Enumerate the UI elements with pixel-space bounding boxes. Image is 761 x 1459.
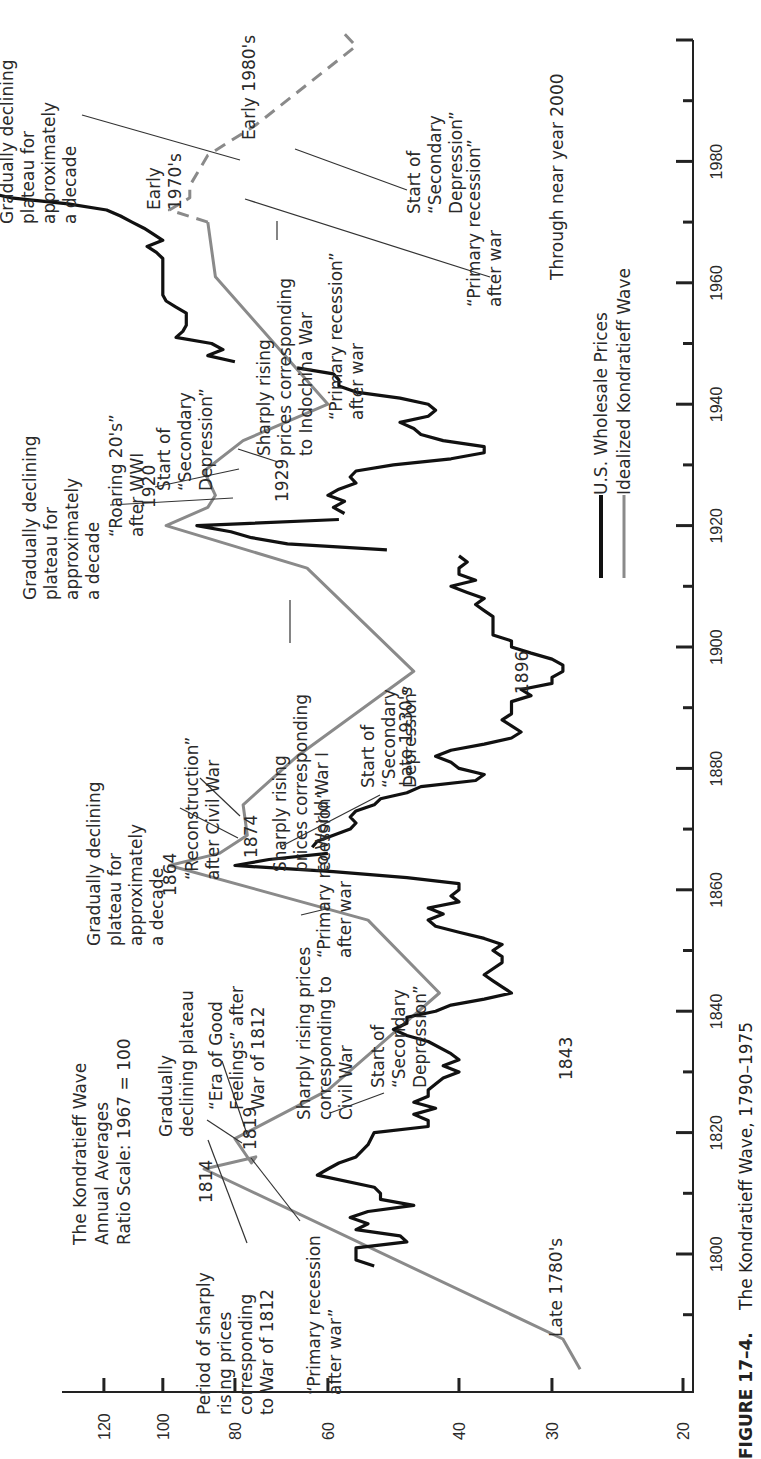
annotation: “Primary recession”after war bbox=[326, 252, 367, 420]
annotation: Start of“SecondaryDepression” bbox=[404, 111, 466, 214]
annotation-line: “Primary recession” bbox=[326, 252, 346, 420]
annotation-line: Early bbox=[144, 167, 164, 210]
annotation-line: Civil War bbox=[336, 1045, 356, 1120]
idealized-wave-line bbox=[169, 34, 356, 222]
caption-figure-number: FIGURE 17–4. bbox=[736, 1332, 756, 1459]
annotation: Period of sharplyrising pricescorrespond… bbox=[194, 1272, 277, 1415]
annotation-line: Feelings” after bbox=[227, 986, 247, 1110]
annotation-line: 1843 bbox=[556, 1037, 576, 1080]
annotation-line: Through near year 2000 bbox=[547, 73, 567, 281]
annotation: 1819 bbox=[240, 1107, 260, 1150]
annotation-line: Late 1930's bbox=[396, 687, 416, 786]
annotation-line: approximately bbox=[62, 478, 82, 600]
year-axis-ticks: 1800182018401860188019001920194019601980 bbox=[676, 40, 725, 1315]
annotation: Late 1780's bbox=[546, 1238, 566, 1337]
annotation-line: declining plateau bbox=[177, 990, 197, 1137]
value-tick-label: 30 bbox=[544, 1422, 561, 1440]
annotation-line: Depression” bbox=[446, 111, 466, 214]
annotation-line: approximately bbox=[126, 824, 146, 946]
legend-label-idealized: Idealized Kondratieff Wave bbox=[614, 268, 634, 495]
annotation-line: to World War I bbox=[312, 752, 332, 872]
annotation: Gradually decliningplateau forapproximat… bbox=[84, 781, 167, 946]
annotation: 1874 bbox=[241, 815, 261, 858]
wholesale-prices-line bbox=[312, 556, 563, 847]
annotation-line: Period of sharply bbox=[194, 1272, 214, 1415]
value-tick-label: 120 bbox=[96, 1413, 113, 1440]
annotation-line: 1970's bbox=[165, 153, 185, 210]
year-tick-label: 1900 bbox=[708, 629, 725, 665]
annotation-line: after war bbox=[347, 343, 367, 420]
annotation: 1814 bbox=[196, 1160, 216, 1203]
annotation-line: Depression” bbox=[196, 388, 216, 491]
annotation-line: to Indochina War bbox=[296, 312, 316, 456]
annotation-line: 1896 bbox=[512, 651, 532, 694]
annotation-line: Start of bbox=[368, 1024, 388, 1088]
annotation-line: 1819 bbox=[240, 1107, 260, 1150]
annotation-line: to War of 1812 bbox=[257, 1289, 277, 1415]
annotation-line: “Reconstruction” bbox=[182, 737, 202, 880]
annotation-line: 1814 bbox=[196, 1160, 216, 1203]
annotation-line: Depression” bbox=[410, 985, 430, 1088]
value-tick-label: 100 bbox=[155, 1413, 172, 1440]
annotation: Early 1980's bbox=[239, 35, 259, 140]
header-title: The Kondratieff Wave bbox=[70, 1063, 90, 1246]
year-tick-label: 1920 bbox=[708, 508, 725, 544]
legend: U.S. Wholesale Prices Idealized Kondrati… bbox=[591, 268, 634, 578]
annotation-line: plateau for bbox=[18, 131, 38, 224]
annotation-line: Start of bbox=[404, 150, 424, 214]
annotation: Early1970's bbox=[144, 153, 185, 210]
annotation-line: Start of bbox=[358, 724, 378, 788]
annotation-line: after war bbox=[335, 881, 355, 958]
annotation-line: “Secondary bbox=[425, 115, 445, 214]
annotation: Gradually decliningplateau forapproximat… bbox=[0, 59, 80, 224]
year-tick-label: 1860 bbox=[708, 872, 725, 908]
annotation-line: Sharply rising bbox=[254, 339, 274, 456]
annotation-line: 1874 bbox=[241, 815, 261, 858]
annotation-line: plateau for bbox=[105, 853, 125, 946]
header-scale: Ratio Scale: 1967 = 100 bbox=[114, 1038, 134, 1245]
annotation-line: “Roaring 20's” bbox=[106, 414, 126, 537]
annotation-line: corresponding bbox=[236, 1294, 256, 1415]
annotation-line: “Era of Good bbox=[206, 1001, 226, 1110]
year-tick-label: 1840 bbox=[708, 994, 725, 1030]
legend-label-wholesale: U.S. Wholesale Prices bbox=[591, 312, 611, 495]
annotation: “Primary recessionafter war” bbox=[304, 1235, 345, 1395]
annotation-line: a decade bbox=[147, 868, 167, 946]
caption-title: The Kondratieff Wave, 1790–1975 bbox=[736, 1022, 756, 1311]
annotation-line: after WWI bbox=[127, 453, 147, 537]
kondratieff-wave-chart: 2030406080100120 18001820184018601880190… bbox=[0, 0, 761, 1459]
annotation: Late 1930's bbox=[396, 687, 416, 786]
annotation: “Roaring 20's”after WWI bbox=[106, 414, 147, 537]
year-tick-label: 1800 bbox=[708, 1236, 725, 1272]
header-averages: Annual Averages bbox=[92, 1102, 112, 1245]
annotation-line: after war” bbox=[325, 1309, 345, 1395]
year-tick-label: 1940 bbox=[708, 387, 725, 423]
year-tick-label: 1980 bbox=[708, 144, 725, 180]
annotation-line: Gradually declining bbox=[20, 435, 40, 600]
value-tick-label: 20 bbox=[675, 1422, 692, 1440]
annotation: Graduallydeclining plateau bbox=[156, 990, 197, 1137]
annotation-line: after war bbox=[485, 230, 505, 307]
annotation-line: “Secondary bbox=[389, 989, 409, 1088]
value-tick-label: 80 bbox=[227, 1422, 244, 1440]
annotation-line: approximately bbox=[39, 102, 59, 224]
annotation-line: “Secondary bbox=[175, 392, 195, 491]
annotation-line: Gradually bbox=[156, 1055, 176, 1137]
annotation: “Era of GoodFeelings” afterWar of 1812 bbox=[206, 986, 268, 1110]
annotation-line: 1929 bbox=[272, 459, 292, 502]
figure-caption: FIGURE 17–4. The Kondratieff Wave, 1790–… bbox=[736, 1022, 756, 1459]
annotation-line: Sharply rising bbox=[270, 755, 290, 872]
annotation-line: rising prices bbox=[215, 1311, 235, 1415]
annotation-line: War of 1812 bbox=[248, 1006, 268, 1110]
wholesale-prices-line bbox=[197, 520, 387, 550]
annotation-line: prices corresponding bbox=[275, 278, 295, 456]
annotation: 1843 bbox=[556, 1037, 576, 1080]
annotation: Sharply rising pricescorresponding toCiv… bbox=[294, 946, 356, 1120]
annotation: Sharply risingprices correspondingto Ind… bbox=[254, 278, 316, 456]
annotation: Sharply risingprices correspondingto Wor… bbox=[270, 694, 332, 872]
annotation: 1929 bbox=[272, 459, 292, 502]
year-tick-label: 1880 bbox=[708, 751, 725, 787]
annotation-line: Gradually declining bbox=[0, 59, 17, 224]
annotation-line: a decade bbox=[83, 522, 103, 600]
annotation: Gradually decliningplateau forapproximat… bbox=[20, 435, 103, 600]
